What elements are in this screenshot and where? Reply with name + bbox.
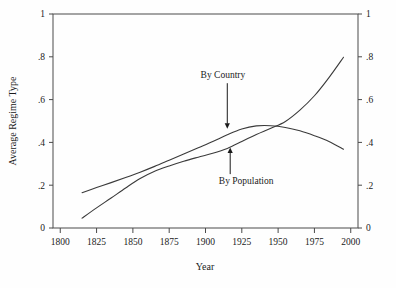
y-axis-title: Average Regime Type [7,76,18,165]
y-tick-label-left: .2 [38,181,45,191]
y-tick-label-right: .8 [366,52,373,62]
y-axis-left-ticks: 0.2.4.6.81 [38,9,53,233]
x-axis-title: Year [196,261,215,272]
regime-type-chart-figure: 0.2.4.6.81 0.2.4.6.81 180018251850187519… [0,0,396,288]
y-axis-right-ticks: 0.2.4.6.81 [358,9,373,233]
y-tick-label-right: 0 [366,223,371,233]
y-tick-label-left: .8 [38,52,45,62]
x-tick-label: 1975 [305,237,324,247]
x-axis-ticks: 180018251850187519001925195019752000 [51,228,361,247]
series-line-by-country [82,126,343,193]
plot-frame [53,14,358,228]
y-tick-label-left: .6 [38,95,45,105]
y-tick-label-left: 1 [40,9,45,19]
y-tick-label-right: 1 [366,9,371,19]
x-tick-label: 1850 [123,237,142,247]
y-tick-label-left: 0 [40,223,45,233]
series-line-by-population [82,57,343,218]
x-tick-label: 1900 [196,237,215,247]
annotation-label: By Country [201,70,246,80]
x-tick-label: 2000 [341,237,360,247]
x-tick-label: 1875 [160,237,179,247]
x-tick-label: 1950 [269,237,288,247]
annotation-label: By Population [219,176,274,186]
annotation-arrow-head [225,123,230,129]
x-tick-label: 1925 [232,237,251,247]
y-tick-label-right: .2 [366,181,373,191]
chart-annotations-group: By CountryBy Population [201,70,274,186]
x-tick-label: 1825 [87,237,106,247]
x-tick-label: 1800 [51,237,70,247]
y-tick-label-left: .4 [38,138,45,148]
y-tick-label-right: .6 [366,95,373,105]
data-series-group [82,57,343,218]
chart-canvas: 0.2.4.6.81 0.2.4.6.81 180018251850187519… [0,0,396,288]
y-tick-label-right: .4 [366,138,373,148]
